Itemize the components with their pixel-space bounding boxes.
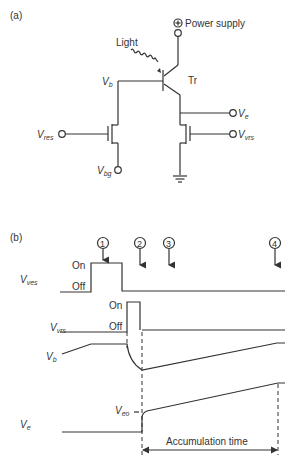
vb-signal-label: Vb: [46, 351, 57, 363]
vbg-node-label: Vbg: [97, 165, 112, 178]
veo-label: Veo: [115, 405, 130, 417]
vvrs-on-label: On: [109, 300, 122, 311]
vres-node-label: Vres: [37, 129, 54, 141]
ve-node-label: Ve: [238, 108, 249, 120]
marker-1: 1: [98, 238, 109, 261]
vvrs-waveform: [60, 302, 140, 332]
svg-text:1: 1: [100, 239, 105, 249]
vves-off-label: Off: [72, 281, 85, 292]
panel-a-label: (a): [10, 10, 22, 21]
mosfet-reset-icon: [59, 81, 122, 173]
vb-waveform: [62, 343, 285, 370]
phototransistor-icon: [163, 36, 180, 113]
figure: (a) Power supply Tr Light Vb: [0, 0, 297, 469]
mosfet-vrs-icon: [180, 113, 236, 175]
ve-signal-label: Ve: [20, 419, 31, 431]
svg-text:4: 4: [272, 239, 277, 249]
vvrs-node-label: Vvrs: [238, 129, 255, 141]
panel-b-label: (b): [10, 232, 22, 243]
ve-waveform: [62, 383, 285, 432]
accumulation-time-label: Accumulation time: [166, 436, 248, 447]
vb-node-label: Vb: [102, 76, 113, 88]
vves-label: Vves: [20, 274, 38, 286]
panel-b-timing-diagram: (b) 1 2 3 4 Vves On Off On Vvrs O: [10, 232, 285, 455]
power-supply-terminal-icon: [174, 19, 182, 36]
svg-text:2: 2: [137, 239, 142, 249]
panel-a-circuit: (a) Power supply Tr Light Vb: [10, 10, 255, 182]
light-wave-icon: [131, 49, 161, 73]
vves-waveform: [60, 263, 285, 292]
power-supply-label: Power supply: [185, 18, 245, 29]
light-label: Light: [116, 37, 138, 48]
ground-icon: [173, 176, 187, 182]
marker-2: 2: [135, 238, 146, 266]
vvrs-off-label: Off: [109, 321, 122, 332]
transistor-label: Tr: [188, 75, 198, 86]
marker-4: 4: [270, 238, 281, 266]
svg-text:3: 3: [166, 239, 171, 249]
marker-3: 3: [164, 238, 175, 266]
vves-on-label: On: [72, 260, 85, 271]
